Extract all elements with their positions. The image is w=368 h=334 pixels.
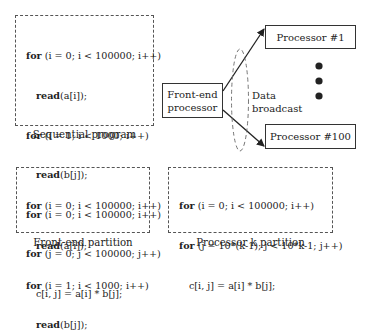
code-line: c[i, j] = a[i] * b[j]; [179,279,342,292]
front-end-partition-code: for (i = 0; i < 100000; i++) read(a[i]);… [26,173,161,334]
front-end-partition-caption: Front-end partition [16,237,150,248]
arrow-to-processor-100 [223,110,264,146]
processor-k-partition-caption: Processor k partition [168,237,333,248]
data-broadcast-label: Data broadcast [252,89,302,115]
code-line: for (i = 0; i < 100000; i++) [26,199,161,212]
ellipsis-dot [315,92,322,99]
code-line: for (i = 0; i < 100000; i++) [179,199,342,212]
ellipsis-dot [315,62,322,69]
code-line: read(b[j]); [26,318,161,331]
arrow-to-processor-1 [223,29,264,91]
ellipsis-dot [315,77,322,84]
code-line: for (i = 1; i < 1000; i++) [26,279,161,292]
